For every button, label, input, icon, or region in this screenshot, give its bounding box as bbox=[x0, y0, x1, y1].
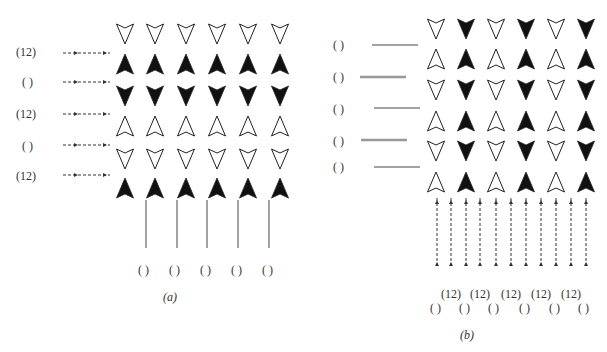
panel-b-arrow-mark-icon bbox=[435, 262, 439, 266]
panel-a-arrowhead-down-open-icon bbox=[117, 24, 134, 44]
panel-b-arrowhead-up-filled-icon bbox=[578, 49, 595, 69]
panel-b-bottom-label-1: ( ) bbox=[430, 301, 441, 316]
panel-a-arrow-mark-icon bbox=[74, 112, 78, 116]
panel-a-arrowhead-down-open-icon bbox=[209, 24, 226, 44]
panel-a-bottom-label-3: ( ) bbox=[200, 263, 211, 278]
panel-a-arrowhead-down-filled-icon bbox=[147, 86, 164, 106]
panel-a-arrow-mark-icon bbox=[74, 51, 78, 55]
panel-a-arrow-mark-icon bbox=[103, 143, 107, 147]
panel-a-arrowhead-up-filled-icon bbox=[117, 178, 134, 198]
panel-a-arrowhead-down-filled-icon bbox=[117, 86, 134, 106]
panel-b-arrowhead-up-filled-icon bbox=[578, 111, 595, 131]
panel-a-arrowhead-up-open-icon bbox=[117, 116, 134, 136]
panel-b-arrow-mark-icon bbox=[524, 262, 528, 266]
panel-a-arrow-mark-icon bbox=[74, 173, 78, 177]
panel-a-arrowhead-up-filled-icon bbox=[272, 178, 289, 198]
panel-b-arrowhead-down-open-icon bbox=[488, 80, 505, 100]
panel-b-bottom-label-6: ( ) bbox=[578, 301, 589, 316]
panel-b-arrowhead-up-filled-icon bbox=[518, 172, 535, 192]
panel-b-bottom-label-2: ( ) bbox=[459, 301, 470, 316]
panel-a-arrowhead-up-filled-icon bbox=[209, 54, 226, 74]
panel-a-arrowhead-down-open-icon bbox=[272, 149, 289, 169]
panel-a-arrowhead-down-open-icon bbox=[147, 149, 164, 169]
panel-b-arrow-mark-icon bbox=[494, 262, 498, 266]
panel-a-arrowhead-up-filled-icon bbox=[240, 178, 257, 198]
panel-b-arrowhead-up-open-icon bbox=[548, 172, 565, 192]
panel-a-arrowhead-up-filled-icon bbox=[178, 178, 195, 198]
panel-b-row-label-4: ( ) bbox=[333, 134, 344, 149]
panel-b-arrowhead-down-filled-icon bbox=[578, 19, 595, 39]
panel-a-row-label-1: (12) bbox=[16, 45, 36, 60]
panel-b-arrowhead-up-filled-icon bbox=[518, 111, 535, 131]
panel-a-arrow-mark-icon bbox=[74, 143, 78, 147]
panel-a-arrow-mark-icon bbox=[103, 80, 107, 84]
panel-a-arrowhead-up-filled-icon bbox=[240, 54, 257, 74]
panel-a-caption: (a) bbox=[163, 290, 177, 305]
panel-b-bottom-top-label-4: (12) bbox=[531, 287, 551, 302]
panel-b-arrowhead-down-open-icon bbox=[428, 19, 445, 39]
panel-a-arrow-mark-icon bbox=[103, 173, 107, 177]
panel-b-arrow-mark-icon bbox=[494, 200, 498, 204]
panel-b-caption: (b) bbox=[460, 328, 474, 343]
panel-b-arrowhead-down-filled-icon bbox=[578, 80, 595, 100]
panel-b-arrowhead-up-filled-icon bbox=[458, 172, 475, 192]
panel-a-arrowhead-up-filled-icon bbox=[209, 178, 226, 198]
panel-b-arrowhead-down-open-icon bbox=[488, 19, 505, 39]
panel-b-arrow-mark-icon bbox=[539, 262, 543, 266]
panel-b-arrowhead-up-filled-icon bbox=[578, 172, 595, 192]
panel-b-arrowhead-up-filled-icon bbox=[518, 49, 535, 69]
panel-b-arrow-mark-icon bbox=[464, 262, 468, 266]
panel-a-arrow-mark-icon bbox=[103, 112, 107, 116]
panel-b-arrowhead-up-filled-icon bbox=[458, 49, 475, 69]
panel-a-arrowhead-up-open-icon bbox=[178, 116, 195, 136]
panel-b-arrow-mark-icon bbox=[569, 262, 573, 266]
panel-b-arrow-mark-icon bbox=[539, 200, 543, 204]
panel-a-row-label-5: (12) bbox=[16, 169, 36, 184]
panel-b-arrowhead-up-open-icon bbox=[548, 111, 565, 131]
panel-a-arrowhead-down-open-icon bbox=[147, 24, 164, 44]
panel-a-arrowhead-up-filled-icon bbox=[147, 178, 164, 198]
panel-a-arrowhead-down-open-icon bbox=[209, 149, 226, 169]
panel-b-arrow-mark-icon bbox=[478, 200, 482, 204]
panel-b-arrowhead-down-filled-icon bbox=[458, 19, 475, 39]
panel-a-arrowhead-up-open-icon bbox=[272, 116, 289, 136]
panel-b-bottom-top-label-2: (12) bbox=[470, 287, 490, 302]
panel-a-arrowhead-down-open-icon bbox=[178, 24, 195, 44]
panel-b-arrowhead-down-open-icon bbox=[428, 141, 445, 161]
panel-a-arrowhead-down-open-icon bbox=[117, 149, 134, 169]
panel-a-arrowhead-down-filled-icon bbox=[272, 86, 289, 106]
panel-b-arrow-mark-icon bbox=[554, 200, 558, 204]
panel-a-bottom-label-5: ( ) bbox=[262, 263, 273, 278]
panel-a-arrowhead-up-open-icon bbox=[147, 116, 164, 136]
panel-b-arrowhead-up-open-icon bbox=[428, 49, 445, 69]
panel-b-arrowhead-down-open-icon bbox=[548, 19, 565, 39]
panel-b-arrow-mark-icon bbox=[478, 262, 482, 266]
panel-b-arrow-mark-icon bbox=[509, 200, 513, 204]
panel-b-arrowhead-up-open-icon bbox=[548, 49, 565, 69]
panel-b-arrowhead-up-open-icon bbox=[428, 111, 445, 131]
panel-b-arrowhead-down-open-icon bbox=[548, 141, 565, 161]
panel-b-arrowhead-down-open-icon bbox=[548, 80, 565, 100]
panel-b-arrow-mark-icon bbox=[464, 200, 468, 204]
panel-a-row-label-4: ( ) bbox=[22, 139, 33, 154]
panel-b-arrowhead-up-filled-icon bbox=[458, 111, 475, 131]
panel-a-row-label-2: ( ) bbox=[22, 75, 33, 90]
panel-a-bottom-label-2: ( ) bbox=[169, 263, 180, 278]
panel-a-arrow-mark-icon bbox=[103, 51, 107, 55]
panel-a-arrowhead-down-open-icon bbox=[240, 149, 257, 169]
panel-a-arrowhead-down-filled-icon bbox=[209, 86, 226, 106]
panel-b-arrowhead-down-open-icon bbox=[428, 80, 445, 100]
panel-b-row-label-5: ( ) bbox=[333, 160, 344, 175]
panel-a-bottom-label-1: ( ) bbox=[138, 263, 149, 278]
panel-b-arrowhead-down-filled-icon bbox=[518, 19, 535, 39]
panel-a-arrowhead-down-filled-icon bbox=[240, 86, 257, 106]
panel-b-arrow-mark-icon bbox=[584, 262, 588, 266]
panel-b-arrow-mark-icon bbox=[435, 200, 439, 204]
panel-b-bottom-label-3: ( ) bbox=[488, 301, 499, 316]
panel-b-arrowhead-up-open-icon bbox=[488, 49, 505, 69]
panel-b-arrowhead-down-filled-icon bbox=[458, 141, 475, 161]
panel-b-arrowhead-down-filled-icon bbox=[518, 141, 535, 161]
panel-b-arrowhead-up-open-icon bbox=[488, 172, 505, 192]
panel-a-row-label-3: (12) bbox=[16, 107, 36, 122]
panel-a-arrowhead-up-filled-icon bbox=[147, 54, 164, 74]
